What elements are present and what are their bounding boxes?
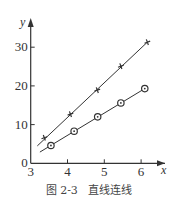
- circle-marker-dot: [120, 102, 122, 104]
- y-tick-label: 10: [15, 117, 28, 132]
- y-tick-label: 20: [15, 78, 28, 93]
- axes: xy34560102030: [15, 15, 167, 179]
- circle-marker-dot: [50, 145, 52, 147]
- x-tick-label: 4: [64, 164, 71, 179]
- x-tick-label: 5: [101, 164, 108, 179]
- plot-area: [37, 38, 151, 152]
- plus-marker-icon: [40, 134, 48, 142]
- circle-marker-dot: [144, 88, 146, 90]
- fit-line: [40, 89, 145, 152]
- y-tick-label: 0: [21, 155, 28, 170]
- circle-marker-dot: [97, 116, 99, 118]
- figure-caption: 图 2-3 直线连线: [0, 181, 178, 197]
- series-plus-markers: [37, 38, 151, 146]
- y-axis-title: y: [19, 15, 26, 29]
- y-tick-label: 30: [15, 39, 28, 54]
- series-circle-markers: [40, 85, 148, 152]
- y-axis-arrow-icon: [28, 18, 34, 27]
- circle-marker-dot: [73, 130, 75, 132]
- x-axis-title: x: [160, 163, 167, 177]
- x-tick-label: 6: [138, 164, 145, 179]
- fit-line: [37, 42, 147, 146]
- plus-marker-icon: [117, 62, 125, 70]
- x-tick-label: 3: [27, 164, 34, 179]
- line-chart: xy34560102030: [0, 0, 178, 180]
